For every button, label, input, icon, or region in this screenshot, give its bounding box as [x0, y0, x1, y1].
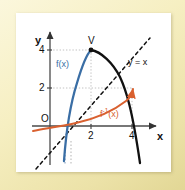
x-axis-label: x	[157, 131, 163, 142]
identity-line-label: y = x	[128, 58, 147, 67]
inverse-function-tail: (x)	[108, 109, 119, 119]
inverse-function-label: f-1(x)	[100, 108, 119, 119]
xtick-label-2: 2	[88, 131, 94, 141]
function-label-fx: f(x)	[56, 60, 69, 69]
ytick-label-2: 2	[39, 83, 45, 93]
xtick-label-4: 4	[129, 131, 135, 141]
vertex-point	[89, 48, 94, 53]
origin-label: O	[41, 114, 49, 124]
plot-card: y x 4 2 2 4 O V f(x) f-1(x) y = x	[16, 13, 171, 172]
ytick-label-4: 4	[39, 45, 45, 55]
figure-frame: y x 4 2 2 4 O V f(x) f-1(x) y = x	[0, 0, 185, 190]
vertex-label: V	[88, 36, 95, 46]
